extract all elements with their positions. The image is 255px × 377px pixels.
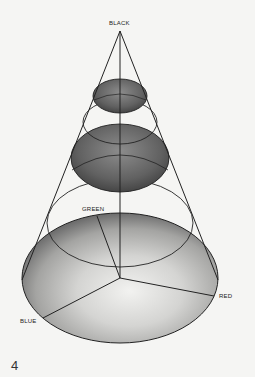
page-number: 4 (11, 359, 18, 372)
color-solid-cone-diagram: BLACK GREEN RED BLUE 4 (0, 0, 255, 377)
label-blue: BLUE (20, 318, 36, 324)
label-black: BLACK (109, 20, 130, 26)
cone-illustration (0, 0, 255, 377)
label-red: RED (219, 293, 232, 299)
label-green: GREEN (82, 206, 104, 212)
